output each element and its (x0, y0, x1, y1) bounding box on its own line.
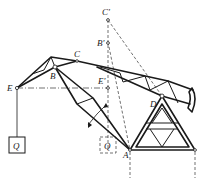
pin-D (160, 94, 164, 98)
label-Q-ghost: Q (104, 141, 111, 151)
pin-C-prime (107, 19, 110, 22)
label-A: A (122, 150, 129, 160)
crane-diagram: C' B' C B E E' D A Q Q (0, 0, 205, 178)
pin-E-prime (107, 87, 110, 90)
label-B: B (50, 71, 56, 81)
pin-E (15, 86, 18, 89)
pin-base-right (194, 149, 197, 152)
tower-truss (130, 96, 195, 150)
label-B-prime: B' (97, 38, 105, 48)
pins (15, 19, 196, 152)
pin-A (129, 149, 132, 152)
pin-B-prime (107, 42, 110, 45)
main-boom (55, 67, 130, 150)
label-C: C (74, 49, 81, 59)
pin-C (76, 60, 79, 63)
label-E-prime: E' (97, 76, 106, 86)
label-E: E (6, 83, 13, 93)
label-C-prime: C' (102, 7, 111, 17)
pin-B (53, 65, 57, 69)
label-Q-load: Q (13, 141, 20, 151)
label-D: D (149, 99, 157, 109)
construction-lines (17, 20, 195, 178)
